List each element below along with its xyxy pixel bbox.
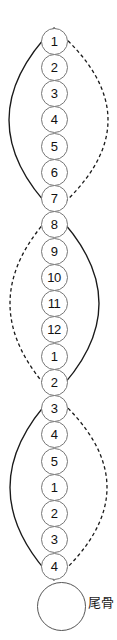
vertebra-circle: 10 (41, 264, 68, 291)
vertebra-number: 10 (47, 271, 60, 284)
vertebra-number: 4 (51, 428, 58, 441)
vertebra-number: 12 (47, 323, 60, 336)
vertebra-circle: 1 (41, 28, 68, 55)
vertebra-circle: 6 (41, 159, 68, 186)
vertebra-circle: 2 (41, 54, 68, 81)
vertebra-circle: 2 (41, 369, 68, 396)
vertebra-number: 3 (51, 87, 58, 100)
vertebra-number: 11 (48, 297, 61, 310)
vertebra-number: 4 (51, 113, 58, 126)
vertebra-number: 1 (51, 35, 58, 48)
vertebra-circle: 1 (41, 343, 68, 370)
vertebra-circle: 5 (41, 448, 68, 475)
vertebra-number: 4 (51, 560, 58, 573)
vertebra-circle: 9 (41, 238, 68, 265)
vertebra-circle: 12 (41, 316, 68, 343)
vertebra-circle: 3 (41, 80, 68, 107)
vertebra-number: 5 (51, 140, 58, 153)
vertebra-circle: 3 (41, 395, 68, 422)
vertebra-circle: 7 (41, 185, 68, 212)
vertebra-circle: 8 (41, 211, 68, 238)
vertebra-circle: 1 (41, 474, 68, 501)
vertebra-circle: 2 (41, 500, 68, 527)
coccyx-label: 尾骨 (88, 595, 114, 610)
vertebra-number: 2 (51, 376, 58, 389)
vertebra-number: 6 (51, 166, 58, 179)
vertebra-circle: 4 (41, 106, 68, 133)
spine-diagram: 1 2 3 4 5 6 7 8 9 10 11 12 1 2 3 4 (0, 0, 117, 640)
vertebra-circle: 3 (41, 526, 68, 553)
vertebra-circle: 4 (41, 553, 68, 580)
vertebra-circle: 11 (41, 290, 68, 317)
vertebra-number: 5 (51, 455, 58, 468)
vertebra-number: 1 (51, 350, 58, 363)
vertebra-number: 2 (51, 507, 58, 520)
vertebra-circle: 5 (41, 133, 68, 160)
vertebra-circle: 4 (41, 421, 68, 448)
vertebra-number: 8 (51, 218, 58, 231)
vertebra-number: 3 (51, 533, 58, 546)
vertebra-number: 2 (51, 61, 58, 74)
coccyx-circle (37, 582, 86, 631)
vertebra-number: 3 (51, 402, 58, 415)
vertebra-number: 1 (51, 481, 58, 494)
vertebra-number: 7 (51, 192, 58, 205)
vertebra-number: 9 (51, 245, 58, 258)
